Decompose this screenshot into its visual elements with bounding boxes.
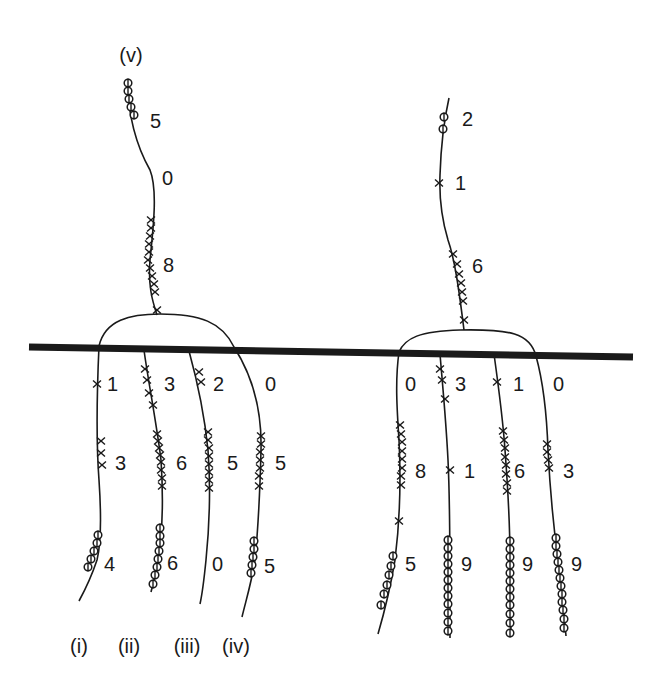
circle-marker-icon	[506, 593, 514, 602]
cross-marker-icon	[204, 437, 212, 444]
circle-marker-icon	[506, 610, 514, 619]
circle-marker-icon	[560, 615, 568, 624]
right-tree: 216085319169039	[377, 98, 582, 638]
circle-marker-icon	[149, 580, 157, 589]
circle-marker-icon	[250, 545, 258, 554]
segment: 5	[124, 79, 161, 133]
segment-count-label: 4	[104, 553, 115, 575]
circle-marker-icon	[506, 545, 514, 554]
circle-marker-icon	[444, 568, 452, 577]
circle-marker-icon	[557, 582, 565, 591]
cross-marker-icon	[145, 390, 153, 397]
lower-strand-iv: 055	[234, 347, 286, 617]
circle-marker-icon	[383, 581, 391, 590]
segment-count-label: 8	[415, 460, 426, 482]
lower-strand-r4: 039	[536, 356, 582, 636]
segment-count-label: 6	[514, 460, 525, 482]
circle-marker-icon	[552, 534, 560, 543]
segment: 0	[265, 373, 276, 395]
segment: 5	[247, 537, 275, 578]
cross-marker-icon	[151, 289, 159, 296]
circle-marker-icon	[552, 542, 560, 551]
cross-marker-icon	[255, 473, 263, 480]
segment: 6	[149, 524, 178, 589]
lower-strand-r2: 319	[436, 354, 475, 638]
segment-count-label: 1	[513, 373, 524, 395]
circle-marker-icon	[555, 566, 563, 575]
segment-count-label: 3	[455, 373, 466, 395]
cross-marker-icon	[397, 482, 405, 489]
cross-marker-icon	[98, 462, 106, 469]
segment-count-label: 9	[461, 553, 472, 575]
circle-marker-icon	[444, 600, 452, 609]
circle-marker-icon	[559, 606, 567, 615]
lower-strand-ii: 366	[141, 350, 187, 592]
upper-strand: 508	[124, 79, 174, 316]
segment: 3	[141, 366, 175, 409]
segment: 3	[436, 366, 466, 403]
segment-count-label: 5	[227, 452, 238, 474]
segment: 9	[444, 536, 472, 636]
cross-marker-icon	[460, 317, 468, 324]
circle-marker-icon	[444, 536, 452, 545]
circle-marker-icon	[553, 550, 561, 559]
segment-count-label: 6	[167, 552, 178, 574]
circle-marker-icon	[444, 592, 452, 601]
cross-marker-icon	[396, 422, 404, 429]
cross-marker-icon	[205, 445, 213, 452]
circle-marker-icon	[155, 547, 163, 556]
segment-count-label: 0	[212, 553, 223, 575]
segment-count-label: 9	[571, 553, 582, 575]
circle-marker-icon	[444, 618, 452, 627]
cross-marker-icon	[141, 366, 149, 373]
segment-count-label: 1	[464, 460, 475, 482]
cross-marker-icon	[197, 379, 205, 386]
strand-line	[234, 347, 261, 617]
roman-label: (ii)	[118, 635, 140, 657]
circle-marker-icon	[506, 537, 514, 546]
segment-count-label: 0	[265, 373, 276, 395]
roman-label: (i)	[70, 635, 88, 657]
circle-marker-icon	[558, 590, 566, 599]
segment-count-label: 1	[107, 373, 118, 395]
circle-marker-icon	[444, 552, 452, 561]
circle-marker-icon	[506, 553, 514, 562]
circle-marker-icon	[506, 569, 514, 578]
circle-marker-icon	[377, 601, 385, 610]
circle-marker-icon	[506, 629, 514, 638]
segment: 0	[162, 167, 173, 189]
circle-marker-icon	[558, 598, 566, 607]
circle-marker-icon	[248, 561, 256, 570]
cross-marker-icon	[143, 377, 151, 384]
segment-count-label: 8	[163, 254, 174, 276]
segment-count-label: 0	[162, 167, 173, 189]
circle-marker-icon	[506, 561, 514, 570]
lower-strand-r3: 169	[493, 354, 533, 638]
segment-count-label: 3	[164, 373, 175, 395]
circle-marker-icon	[249, 553, 257, 562]
circle-marker-icon	[125, 95, 133, 104]
circle-marker-icon	[380, 590, 388, 599]
segment: 3	[97, 438, 126, 475]
roman-label: (iii)	[174, 635, 201, 657]
circle-marker-icon	[90, 547, 98, 556]
circle-marker-icon	[151, 571, 159, 580]
lower-strand-iii: 250	[189, 351, 238, 604]
segment-count-label: 5	[275, 452, 286, 474]
cross-marker-icon	[97, 438, 105, 445]
segment-count-label: 2	[462, 108, 473, 130]
circle-marker-icon	[444, 576, 452, 585]
upper-strand: 216	[435, 98, 483, 330]
circle-marker-icon	[130, 111, 138, 120]
segment-count-label: 0	[553, 373, 564, 395]
circle-marker-icon	[247, 569, 255, 578]
circle-marker-icon	[87, 555, 95, 564]
cross-marker-icon	[441, 396, 449, 403]
circle-marker-icon	[560, 624, 568, 633]
roman-label: (iv)	[222, 635, 250, 657]
segment: 8	[144, 217, 174, 314]
segment: 2	[439, 108, 473, 134]
segment-count-label: 2	[213, 373, 224, 395]
segment-count-label: 9	[522, 553, 533, 575]
circle-marker-icon	[506, 619, 514, 628]
